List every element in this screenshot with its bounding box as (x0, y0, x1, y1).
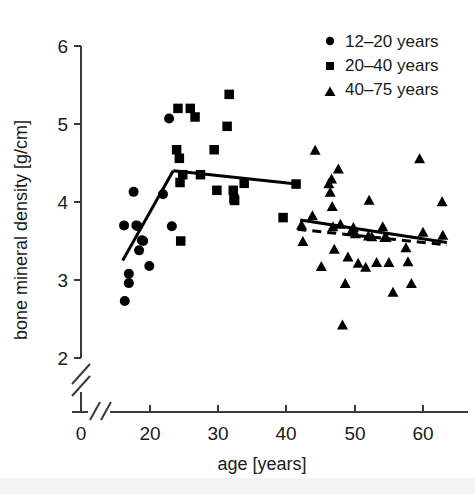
circle-marker (164, 114, 174, 124)
circle-marker (167, 221, 177, 231)
y-tick-label-3: 3 (57, 270, 68, 291)
x-tick-label-60: 60 (412, 423, 433, 444)
square-marker (212, 186, 222, 196)
square-marker (173, 104, 183, 114)
circle-marker (144, 261, 154, 271)
legend-label-2: 40–75 years (345, 80, 439, 99)
circle-marker (124, 269, 134, 279)
circle-marker (120, 296, 130, 306)
square-marker (176, 236, 186, 246)
square-marker (209, 145, 219, 155)
y-tick-label-5: 5 (57, 114, 68, 135)
bottom-edge-band (0, 478, 475, 494)
circle-marker (129, 187, 139, 197)
square-marker (229, 186, 239, 196)
square-marker (175, 154, 185, 164)
square-marker (230, 196, 240, 206)
x-tick-label-30: 30 (207, 423, 228, 444)
circle-marker (124, 278, 134, 288)
x-tick-label-0: 0 (76, 423, 87, 444)
x-tick-label-40: 40 (275, 423, 296, 444)
x-tick-label-50: 50 (344, 423, 365, 444)
legend-label-1: 20–40 years (345, 56, 439, 75)
y-tick-label-2: 2 (57, 348, 68, 369)
y-tick-label-4: 4 (57, 192, 68, 213)
circle-marker (119, 220, 129, 230)
y-tick-label-6: 6 (57, 36, 68, 57)
square-marker (190, 112, 200, 122)
square-marker (222, 122, 232, 132)
bone-mineral-density-figure: 6 5 4 3 2 bone mineral density [g/cm] (0, 0, 475, 494)
x-tick-label-20: 20 (139, 423, 160, 444)
circle-marker (134, 245, 144, 255)
scatter-plot: 6 5 4 3 2 bone mineral density [g/cm] (0, 0, 475, 494)
circle-marker (138, 236, 148, 246)
x-axis-title: age [years] (217, 454, 306, 474)
square-marker (172, 145, 182, 155)
circle-marker-icon (326, 37, 334, 45)
legend-label-0: 12–20 years (345, 32, 439, 51)
square-marker (278, 213, 288, 223)
square-marker (224, 90, 234, 100)
square-marker-icon (326, 62, 334, 70)
square-marker (186, 104, 196, 114)
y-axis-title: bone mineral density [g/cm] (11, 120, 31, 340)
